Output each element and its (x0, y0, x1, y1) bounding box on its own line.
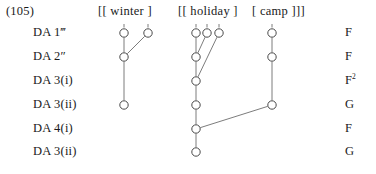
grid-node (268, 53, 276, 61)
grid-node (192, 101, 200, 109)
association-line (198, 37, 205, 53)
grid-node (120, 101, 128, 109)
grid-node (215, 29, 223, 37)
grid-node (203, 29, 211, 37)
grid-node (144, 29, 152, 37)
association-grid (0, 0, 376, 174)
grid-node (192, 148, 200, 156)
grid-node (192, 77, 200, 85)
grid-node (268, 29, 276, 37)
grid-node (120, 29, 128, 37)
grid-node (192, 125, 200, 133)
grid-node (192, 53, 200, 61)
grid-node (192, 29, 200, 37)
association-line (127, 36, 144, 53)
grid-node (120, 53, 128, 61)
association-line (200, 106, 267, 127)
node-layer (120, 29, 276, 156)
grid-node (268, 101, 276, 109)
diagram-canvas: (105) [[ winter ] [[ holiday ] [ camp ]]… (0, 0, 376, 174)
association-line (198, 37, 217, 77)
tick-layer (124, 24, 272, 28)
